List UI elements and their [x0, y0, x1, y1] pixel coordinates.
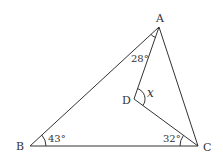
angle-arc-a	[151, 34, 156, 37]
point-label-d: D	[122, 94, 131, 107]
point-label-b: B	[16, 140, 24, 153]
point-label-a: A	[155, 12, 165, 25]
angle-label-b: 43°	[48, 133, 66, 144]
angle-label-a: 28°	[131, 53, 149, 64]
point-label-c: C	[203, 141, 211, 154]
segment-ab	[30, 27, 159, 146]
triangle-diagram: A B C D 28° 43° 32° x	[0, 0, 223, 165]
segment-ca	[159, 27, 198, 146]
angle-label-c: 32°	[163, 133, 181, 144]
angle-label-x: x	[147, 86, 154, 100]
angle-arc-b	[42, 135, 46, 146]
